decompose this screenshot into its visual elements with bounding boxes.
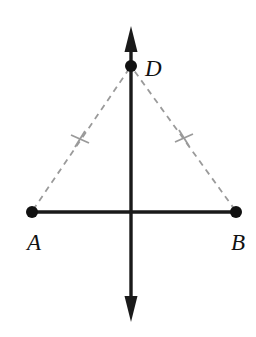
point-label-b: B (231, 230, 245, 255)
geometry-figure: A B D (0, 0, 256, 337)
figure-canvas: A B D (0, 0, 256, 337)
point-label-a: A (25, 230, 42, 255)
point-dot-d (125, 60, 137, 72)
point-dot-a (26, 206, 38, 218)
point-dot-b (230, 206, 242, 218)
point-label-d: D (144, 56, 162, 81)
